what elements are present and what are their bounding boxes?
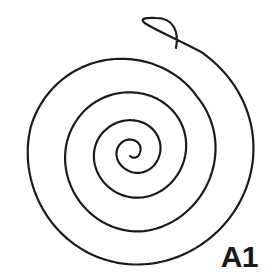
figure-label: A1 [221, 242, 258, 272]
figure-canvas: A1 [0, 0, 276, 280]
spiral-path-group [28, 18, 254, 265]
spiral-curve-icon [28, 18, 254, 265]
spiral-drawing [0, 0, 276, 280]
